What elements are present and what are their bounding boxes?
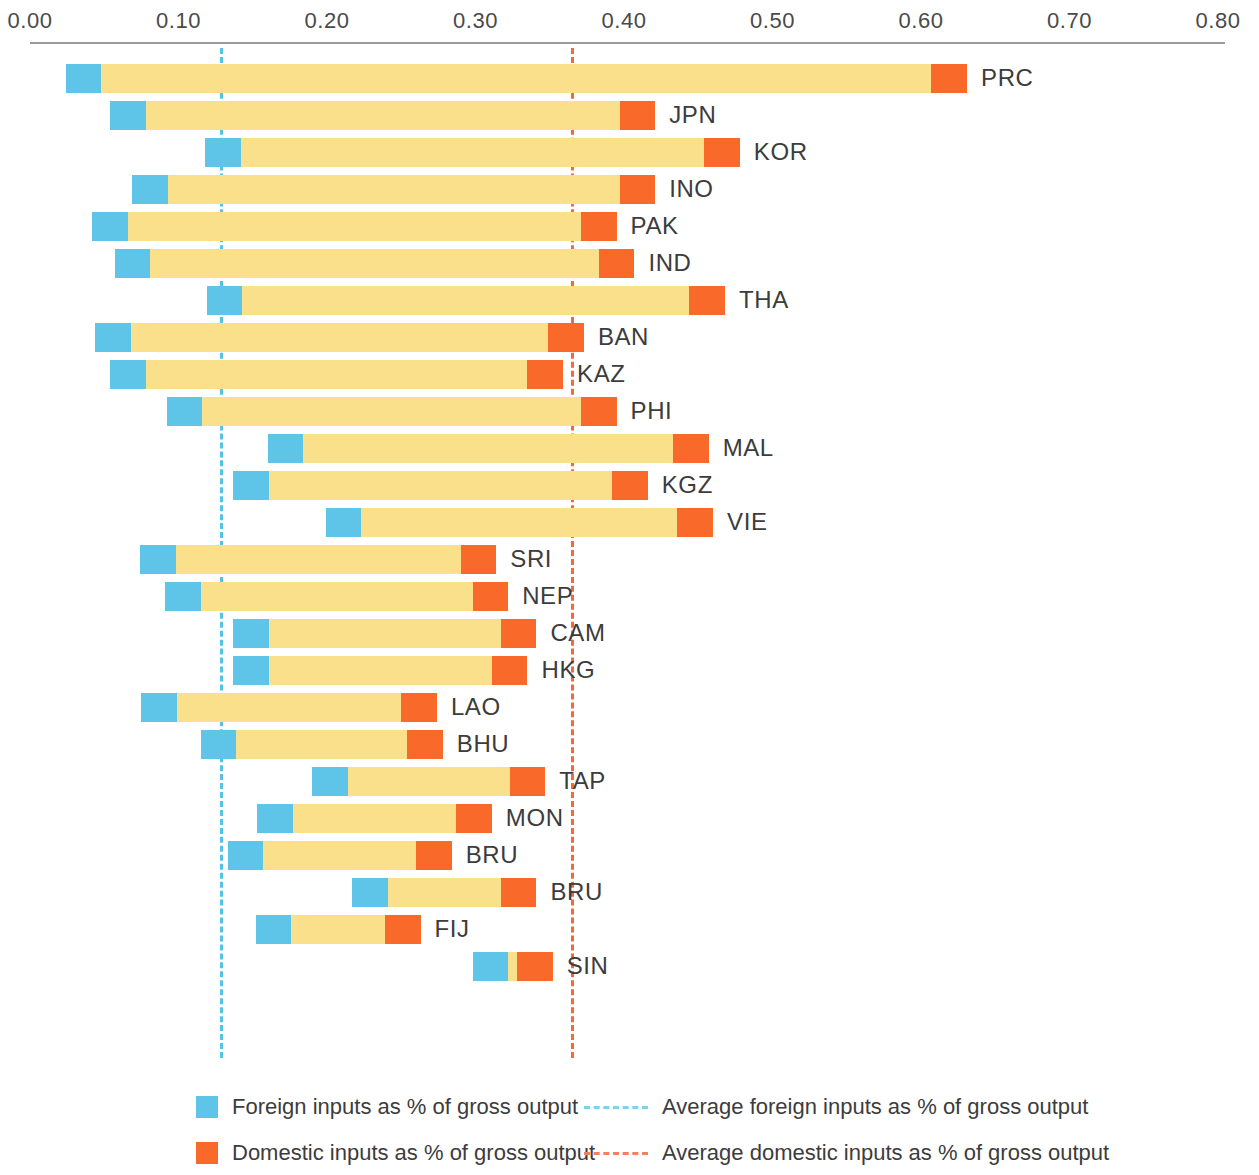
legend-item-average-foreign: Average foreign inputs as % of gross out… bbox=[584, 1094, 1088, 1120]
bar-row: VIE bbox=[0, 508, 1259, 537]
bar-segment-domestic bbox=[677, 508, 713, 537]
bar-segment-middle bbox=[201, 582, 473, 611]
bar-segment-domestic bbox=[401, 693, 437, 722]
x-axis-tick-labels: 0.000.100.200.300.400.500.600.700.80 bbox=[0, 0, 1259, 40]
bar-label-jpn: JPN bbox=[669, 101, 716, 129]
bar-row: LAO bbox=[0, 693, 1259, 722]
bar-segment-middle bbox=[348, 767, 510, 796]
legend-label-average-domestic: Average domestic inputs as % of gross ou… bbox=[662, 1140, 1109, 1166]
bar-segment-middle bbox=[269, 471, 612, 500]
bar-segment-domestic bbox=[510, 767, 546, 796]
bar-segment-foreign bbox=[473, 952, 509, 981]
x-axis-tick-0.00: 0.00 bbox=[8, 8, 53, 34]
bar-segment-middle bbox=[101, 64, 931, 93]
bar-segment-domestic bbox=[599, 249, 635, 278]
bar-segment-foreign bbox=[92, 212, 128, 241]
bar-segment-domestic bbox=[620, 175, 656, 204]
bar-segment-middle bbox=[241, 138, 704, 167]
bar-segment-foreign bbox=[132, 175, 168, 204]
bar-segment-middle bbox=[176, 545, 461, 574]
bar-segment-middle bbox=[177, 693, 401, 722]
bar-segment-middle bbox=[291, 915, 385, 944]
bar-segment-foreign bbox=[312, 767, 348, 796]
bar-label-vie: VIE bbox=[727, 508, 767, 536]
bar-segment-domestic bbox=[527, 360, 563, 389]
bar-row: CAM bbox=[0, 619, 1259, 648]
bar-segment-foreign bbox=[256, 915, 292, 944]
bar-segment-middle bbox=[202, 397, 581, 426]
bar-row: IND bbox=[0, 249, 1259, 278]
bar-segment-middle bbox=[269, 619, 501, 648]
bar-segment-domestic bbox=[473, 582, 509, 611]
x-axis-tick-0.70: 0.70 bbox=[1047, 8, 1092, 34]
bar-row: BAN bbox=[0, 323, 1259, 352]
bar-segment-middle bbox=[263, 841, 416, 870]
bar-segment-middle bbox=[146, 101, 620, 130]
bar-segment-foreign bbox=[115, 249, 151, 278]
bar-label-prc: PRC bbox=[981, 64, 1033, 92]
bar-segment-domestic bbox=[581, 212, 617, 241]
bar-segment-middle bbox=[168, 175, 619, 204]
bar-segment-foreign bbox=[167, 397, 203, 426]
bar-segment-middle bbox=[236, 730, 407, 759]
bar-segment-foreign bbox=[141, 693, 177, 722]
bar-segment-domestic bbox=[501, 619, 537, 648]
bar-row: KGZ bbox=[0, 471, 1259, 500]
bar-segment-domestic bbox=[407, 730, 443, 759]
bar-segment-middle bbox=[303, 434, 673, 463]
bar-segment-middle bbox=[131, 323, 548, 352]
x-axis-tick-0.50: 0.50 bbox=[750, 8, 795, 34]
bar-label-lao: LAO bbox=[451, 693, 501, 721]
bar-label-bhu: BHU bbox=[457, 730, 509, 758]
bar-row: BHU bbox=[0, 730, 1259, 759]
bar-label-kgz: KGZ bbox=[662, 471, 713, 499]
bar-row: KOR bbox=[0, 138, 1259, 167]
bar-row: TAP bbox=[0, 767, 1259, 796]
bar-segment-domestic bbox=[931, 64, 967, 93]
bar-label-tap: TAP bbox=[559, 767, 606, 795]
bar-label-sri: SRI bbox=[510, 545, 552, 573]
bar-segment-domestic bbox=[620, 101, 656, 130]
bar-label-kor: KOR bbox=[754, 138, 808, 166]
bar-segment-middle bbox=[146, 360, 528, 389]
legend-item-average-domestic: Average domestic inputs as % of gross ou… bbox=[584, 1140, 1109, 1166]
domestic-swatch-icon bbox=[196, 1142, 218, 1164]
bar-row: THA bbox=[0, 286, 1259, 315]
bar-segment-foreign bbox=[140, 545, 176, 574]
bar-row: PRC bbox=[0, 64, 1259, 93]
bar-label-ino: INO bbox=[669, 175, 713, 203]
legend-label-domestic: Domestic inputs as % of gross output bbox=[232, 1140, 595, 1166]
x-axis-tick-0.10: 0.10 bbox=[156, 8, 201, 34]
legend-label-foreign: Foreign inputs as % of gross output bbox=[232, 1094, 578, 1120]
bar-segment-foreign bbox=[205, 138, 241, 167]
x-axis-tick-0.40: 0.40 bbox=[602, 8, 647, 34]
bar-label-phi: PHI bbox=[631, 397, 673, 425]
average-domestic-dash-icon bbox=[584, 1152, 648, 1155]
bar-segment-foreign bbox=[228, 841, 264, 870]
bar-row: NEP bbox=[0, 582, 1259, 611]
x-axis-line bbox=[30, 42, 1225, 44]
bar-segment-domestic bbox=[581, 397, 617, 426]
bar-segment-middle bbox=[150, 249, 598, 278]
bar-row: PHI bbox=[0, 397, 1259, 426]
bar-row: SIN bbox=[0, 952, 1259, 981]
bar-segment-middle bbox=[269, 656, 492, 685]
legend-label-average-foreign: Average foreign inputs as % of gross out… bbox=[662, 1094, 1088, 1120]
bar-segment-domestic bbox=[612, 471, 648, 500]
bar-segment-foreign bbox=[207, 286, 243, 315]
x-axis-tick-0.60: 0.60 bbox=[899, 8, 944, 34]
bar-segment-domestic bbox=[385, 915, 421, 944]
bar-row: JPN bbox=[0, 101, 1259, 130]
bar-segment-middle bbox=[128, 212, 581, 241]
bar-label-kaz: KAZ bbox=[577, 360, 625, 388]
bar-row: KAZ bbox=[0, 360, 1259, 389]
bar-segment-foreign bbox=[233, 471, 269, 500]
bar-label-ban: BAN bbox=[598, 323, 649, 351]
bar-label-nep: NEP bbox=[522, 582, 573, 610]
bar-segment-domestic bbox=[548, 323, 584, 352]
bar-row: BRU bbox=[0, 878, 1259, 907]
bar-segment-middle bbox=[293, 804, 456, 833]
bar-label-fij: FIJ bbox=[435, 915, 470, 943]
legend-item-foreign: Foreign inputs as % of gross output bbox=[196, 1094, 578, 1120]
bar-segment-foreign bbox=[66, 64, 102, 93]
